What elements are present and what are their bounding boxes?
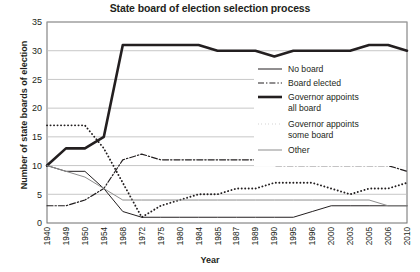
svg-text:1985: 1985 — [214, 227, 223, 246]
x-tick-label: 1989 — [251, 227, 260, 246]
svg-text:1968: 1968 — [119, 227, 128, 246]
svg-text:1950: 1950 — [81, 227, 90, 246]
legend-label: Other — [288, 145, 310, 155]
svg-text:1989: 1989 — [251, 227, 260, 246]
y-tick-label: 35 — [32, 17, 42, 27]
legend-label: Governor appoints — [288, 119, 359, 129]
x-tick-label: 2000 — [327, 227, 336, 246]
x-tick-label: 1949 — [62, 227, 71, 246]
legend-label: some board — [288, 130, 334, 140]
legend-label: Board elected — [288, 78, 341, 88]
x-tick-label: 1954 — [100, 227, 109, 246]
y-tick-label: 30 — [32, 46, 42, 56]
y-tick-label: 15 — [32, 132, 42, 142]
svg-text:1980: 1980 — [176, 227, 185, 246]
x-tick-label: 1984 — [195, 227, 204, 246]
x-tick-label: 1980 — [176, 227, 185, 246]
x-tick-label: 2006 — [384, 227, 393, 246]
svg-text:1995: 1995 — [289, 227, 298, 246]
chart-figure: State board of election selection proces… — [0, 0, 420, 272]
x-tick-label: 1940 — [43, 227, 52, 246]
x-tick-label: 1990 — [270, 227, 279, 246]
legend-label: all board — [288, 103, 321, 113]
x-tick-label: 1996 — [308, 227, 317, 246]
svg-text:1975: 1975 — [157, 227, 166, 246]
svg-text:1949: 1949 — [62, 227, 71, 246]
x-tick-label: 1995 — [289, 227, 298, 246]
x-tick-label: 1968 — [119, 227, 128, 246]
svg-text:1987: 1987 — [232, 227, 241, 246]
svg-text:1972: 1972 — [138, 227, 147, 246]
svg-text:1954: 1954 — [100, 227, 109, 246]
svg-text:2003: 2003 — [346, 227, 355, 246]
x-tick-label: 1950 — [81, 227, 90, 246]
svg-text:1990: 1990 — [270, 227, 279, 246]
chart-plot-area: 0510152025303519401949195019541968197219… — [0, 0, 420, 272]
y-tick-label: 25 — [32, 75, 42, 85]
x-tick-label: 1987 — [232, 227, 241, 246]
svg-text:2006: 2006 — [384, 227, 393, 246]
svg-text:1940: 1940 — [43, 227, 52, 246]
x-tick-label: 2010 — [403, 227, 412, 246]
y-tick-label: 0 — [37, 218, 42, 228]
svg-text:2010: 2010 — [403, 227, 412, 246]
y-tick-label: 10 — [32, 161, 42, 171]
x-tick-label: 1985 — [214, 227, 223, 246]
legend-label: Governor appoints — [288, 92, 359, 102]
legend-label: No board — [288, 64, 324, 74]
y-tick-label: 20 — [32, 103, 42, 113]
x-tick-label: 2005 — [365, 227, 374, 246]
x-tick-label: 1972 — [138, 227, 147, 246]
y-tick-label: 5 — [37, 190, 42, 200]
svg-text:1984: 1984 — [195, 227, 204, 246]
svg-text:1996: 1996 — [308, 227, 317, 246]
x-tick-label: 2003 — [346, 227, 355, 246]
svg-text:2000: 2000 — [327, 227, 336, 246]
x-tick-label: 1975 — [157, 227, 166, 246]
svg-text:2005: 2005 — [365, 227, 374, 246]
